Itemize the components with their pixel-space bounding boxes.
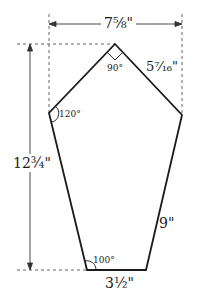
angle-left-label: 120° — [59, 110, 81, 119]
arrow-down-icon — [28, 263, 33, 270]
angle-top-label: 90° — [107, 64, 123, 73]
angle-bottom-left-label: 100° — [93, 256, 115, 265]
side-top-right-label: 5⁷⁄₁₆" — [146, 60, 178, 73]
height-label: 12¾" — [13, 154, 51, 172]
side-bottom-label: 3½" — [105, 276, 134, 290]
pentagon-diagram: 7⅝" 12¾" 5⁷⁄₁₆" 9" 3½" 90° 120° 100° — [0, 0, 200, 299]
pentagon-shape — [49, 44, 182, 270]
arrow-up-icon — [28, 44, 33, 51]
arrow-left-icon — [49, 22, 56, 27]
side-right-label: 9" — [159, 216, 174, 230]
right-angle-marker — [107, 52, 123, 60]
width-label: 7⅝" — [101, 16, 136, 30]
arrow-right-icon — [175, 22, 182, 27]
